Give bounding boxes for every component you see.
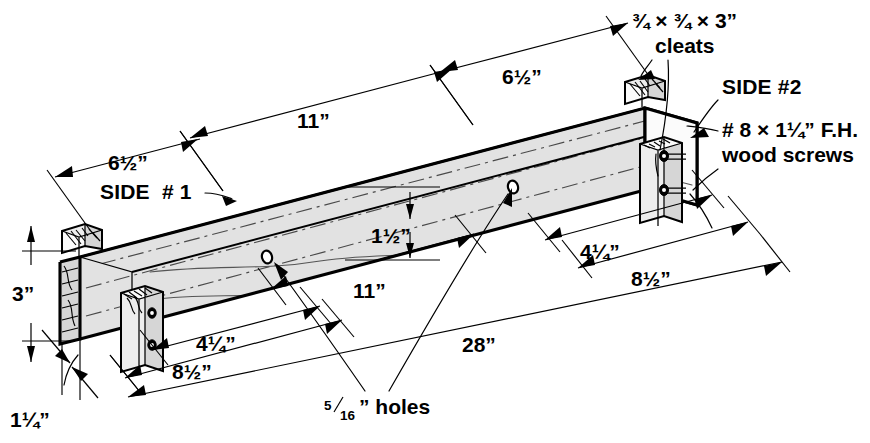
dim-label-4-quarter-right: 4¼”: [580, 240, 620, 263]
label-screw-name: wood screws: [721, 143, 854, 166]
right-cleat-board-side: [664, 137, 682, 222]
dim-label-4-quarter-left: 4¼”: [196, 332, 236, 355]
left-cleat-screw-upper: [148, 308, 156, 318]
label-cleats-name: cleats: [655, 34, 715, 57]
dim-label-11-bottom: 11”: [353, 279, 386, 302]
label-holes-denominator: 16: [340, 408, 356, 423]
dim-label-3: 3”: [12, 282, 34, 305]
dim-label-11-top: 11”: [297, 109, 330, 132]
side-2-leader: [690, 100, 718, 138]
label-side-1: SIDE # 1: [100, 180, 192, 203]
label-holes-numerator: 5: [324, 398, 332, 413]
side-1-leader: [205, 193, 237, 206]
dim-label-8-half-left: 8½”: [172, 360, 212, 383]
label-cleats-size: ¾ × ¾ × 3”: [632, 9, 737, 32]
technical-drawing-canvas: 6½” SIDE # 1 11” 6½” ¾ × ¾ × 3” cleats: [0, 0, 870, 443]
label-holes: 5 16 ” holes: [324, 395, 430, 423]
label-holes-suffix: ” holes: [359, 395, 430, 418]
label-screw-spec: # 8 × 1¼” F.H.: [722, 118, 858, 141]
dim-label-28: 28”: [462, 333, 496, 356]
dim-label-6-half-left: 6½”: [108, 151, 148, 174]
left-cleat-board-side: [145, 286, 163, 371]
label-side-2: SIDE #2: [722, 75, 802, 98]
dim-label-6-half-right: 6½”: [502, 65, 542, 88]
dim-label-1-half: 1½”: [371, 224, 411, 247]
dim-label-1-quarter: 1¼”: [10, 408, 50, 431]
beam-assembly-drawing: 6½” SIDE # 1 11” 6½” ¾ × ¾ × 3” cleats: [0, 0, 870, 443]
